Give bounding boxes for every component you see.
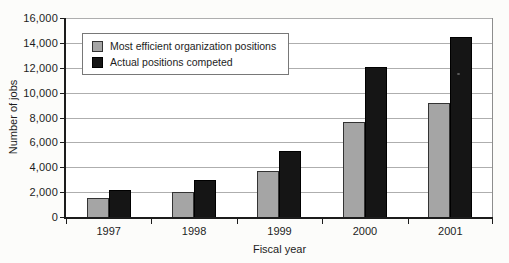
y-axis-line	[64, 18, 66, 219]
bar-group-2000	[322, 18, 407, 217]
bar-chart-figure: Number of jobs 02,0004,0006,0008,00010,0…	[0, 0, 509, 263]
plot-area: Most efficient organization positions Ac…	[66, 18, 493, 217]
x-axis-tick	[322, 219, 323, 224]
x-axis-tick	[492, 219, 493, 224]
y-axis-tick-label: 14,000	[23, 37, 58, 49]
legend-swatch-actual-icon	[92, 57, 103, 68]
x-axis-tick-label: 1998	[151, 225, 236, 237]
y-axis: 02,0004,0006,0008,00010,00012,00014,0001…	[0, 18, 60, 217]
x-axis-tick	[237, 219, 238, 224]
y-axis-tick-label: 2,000	[29, 186, 58, 198]
legend-label-actual: Actual positions competed	[110, 56, 233, 68]
x-axis-tick	[66, 219, 67, 224]
y-axis-tick	[60, 192, 65, 193]
y-axis-tick	[60, 118, 65, 119]
legend: Most efficient organization positions Ac…	[82, 33, 289, 75]
bar-actual-1998	[194, 180, 216, 217]
y-axis-tick	[60, 43, 65, 44]
bar-meo-2001	[428, 103, 450, 217]
bar-meo-2000	[343, 122, 365, 217]
print-speck	[457, 73, 460, 75]
y-axis-tick-label: 10,000	[23, 87, 58, 99]
x-axis-tick	[151, 219, 152, 224]
legend-item-meo: Most efficient organization positions	[92, 40, 276, 52]
x-axis-tick	[408, 219, 409, 224]
bar-meo-1999	[257, 171, 279, 217]
bar-actual-1999	[279, 151, 301, 217]
legend-item-actual: Actual positions competed	[92, 56, 276, 68]
x-axis-tick-label: 2000	[322, 225, 407, 237]
y-axis-tick-label: 12,000	[23, 62, 58, 74]
y-axis-tick-label: 16,000	[23, 12, 58, 24]
bar-group-2001	[408, 18, 493, 217]
x-ticks	[66, 219, 493, 224]
x-axis-tick-label: 1999	[237, 225, 322, 237]
y-axis-tick	[60, 18, 65, 19]
y-axis-tick	[60, 93, 65, 94]
y-axis-tick-label: 4,000	[29, 161, 58, 173]
y-axis-tick	[60, 167, 65, 168]
y-axis-tick-label: 0	[52, 211, 58, 223]
x-axis-title: Fiscal year	[66, 243, 493, 255]
x-axis-tick-label: 2001	[408, 225, 493, 237]
x-axis-tick-label: 1997	[66, 225, 151, 237]
bar-actual-2001	[450, 37, 472, 217]
y-axis-tick	[60, 68, 65, 69]
bar-meo-1998	[172, 192, 194, 217]
y-axis-tick	[60, 142, 65, 143]
bar-actual-2000	[365, 67, 387, 217]
legend-swatch-meo-icon	[92, 41, 103, 52]
bar-meo-1997	[87, 198, 109, 217]
x-labels: 19971998199920002001	[66, 225, 493, 237]
y-axis-tick	[60, 217, 65, 218]
y-axis-tick-label: 8,000	[29, 112, 58, 124]
legend-label-meo: Most efficient organization positions	[110, 40, 276, 52]
bar-actual-1997	[109, 190, 131, 217]
y-axis-tick-label: 6,000	[29, 136, 58, 148]
